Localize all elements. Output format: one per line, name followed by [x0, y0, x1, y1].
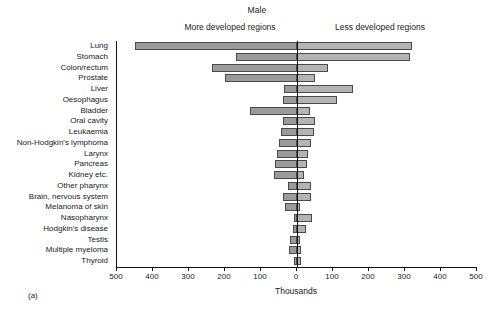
category-label: Multiple myeloma — [0, 245, 112, 256]
x-axis-tick — [440, 267, 441, 271]
bar-less-developed — [297, 225, 306, 233]
bar-less-developed — [297, 53, 410, 61]
x-axis-label: Thousands — [116, 286, 476, 296]
category-axis-labels: LungStomachColon/rectumProstateLiverOeso… — [0, 41, 112, 267]
bar-less-developed — [297, 139, 311, 147]
bar-more-developed — [290, 236, 297, 244]
bar-more-developed — [285, 203, 297, 211]
x-axis-tick — [152, 267, 153, 271]
bar-less-developed — [297, 128, 314, 136]
bar-more-developed — [289, 246, 297, 254]
category-label: Leukaemia — [0, 127, 112, 138]
x-axis-tick-label: 500 — [96, 272, 136, 281]
category-label: Testis — [0, 235, 112, 246]
panel-letter: (a) — [28, 291, 38, 300]
bar-more-developed — [288, 182, 297, 190]
bar-less-developed — [297, 117, 315, 125]
x-axis-tick — [188, 267, 189, 271]
bar-more-developed — [236, 53, 297, 61]
legend-less-developed-regions: Less developed regions — [295, 22, 465, 32]
bar-more-developed — [135, 42, 297, 50]
bar-more-developed — [279, 139, 297, 147]
bar-less-developed — [297, 42, 412, 50]
bar-less-developed — [297, 96, 337, 104]
bar-less-developed — [297, 74, 315, 82]
category-label: Other pharynx — [0, 181, 112, 192]
x-axis-tick-label: 500 — [456, 272, 488, 281]
category-label: Thyroid — [0, 256, 112, 267]
x-axis-tick — [260, 267, 261, 271]
category-label: Nasopharynx — [0, 213, 112, 224]
x-axis-tick-label: 400 — [132, 272, 172, 281]
bar-less-developed — [297, 171, 304, 179]
plot-area — [116, 41, 476, 267]
bar-less-developed — [297, 160, 307, 168]
bar-more-developed — [274, 171, 297, 179]
bar-more-developed — [283, 117, 297, 125]
x-axis-tick — [404, 267, 405, 271]
bar-more-developed — [283, 96, 297, 104]
x-axis-tick-label: 300 — [168, 272, 208, 281]
category-label: Pancreas — [0, 159, 112, 170]
bar-more-developed — [275, 160, 297, 168]
bar-more-developed — [277, 150, 297, 158]
category-label: Bladder — [0, 106, 112, 117]
chart-title: Male — [0, 5, 488, 15]
category-label: Kidney etc. — [0, 170, 112, 181]
x-axis-tick — [332, 267, 333, 271]
category-label: Lung — [0, 41, 112, 52]
legend-more-developed-regions: More developed regions — [150, 22, 310, 32]
x-axis-tick-label: 400 — [420, 272, 460, 281]
bar-less-developed — [297, 85, 353, 93]
bar-less-developed — [297, 107, 310, 115]
bar-more-developed — [283, 193, 297, 201]
category-label: Melanoma of skin — [0, 202, 112, 213]
x-axis-tick-label: 300 — [384, 272, 424, 281]
category-label: Stomach — [0, 52, 112, 63]
bar-more-developed — [250, 107, 297, 115]
bar-more-developed — [284, 85, 297, 93]
bar-less-developed — [297, 193, 311, 201]
bar-more-developed — [212, 64, 297, 72]
x-axis-tick — [224, 267, 225, 271]
x-axis-tick-label: 200 — [204, 272, 244, 281]
zero-axis-line — [297, 41, 298, 267]
x-axis-tick — [476, 267, 477, 271]
bar-less-developed — [297, 150, 308, 158]
cancer-incidence-pyramid-chart: Male More developed regions Less develop… — [0, 0, 488, 314]
category-label: Brain, nervous system — [0, 192, 112, 203]
bar-less-developed — [297, 64, 328, 72]
x-axis-tick-label: 100 — [240, 272, 280, 281]
bar-less-developed — [297, 182, 311, 190]
category-label: Hodgkin's disease — [0, 224, 112, 235]
category-label: Prostate — [0, 73, 112, 84]
category-label: Colon/rectum — [0, 63, 112, 74]
x-axis-tick — [116, 267, 117, 271]
x-axis-tick-label: 100 — [312, 272, 352, 281]
category-label: Oesophagus — [0, 95, 112, 106]
bar-more-developed — [225, 74, 297, 82]
chart-title-text: Male — [248, 5, 267, 15]
x-axis-tick-label: 0 — [276, 272, 316, 281]
bar-more-developed — [281, 128, 297, 136]
category-label: Liver — [0, 84, 112, 95]
x-axis-tick — [368, 267, 369, 271]
x-axis-tick-label: 200 — [348, 272, 388, 281]
category-label: Oral cavity — [0, 116, 112, 127]
category-label: Non-Hodgkin's lymphoma — [0, 138, 112, 149]
category-label: Larynx — [0, 149, 112, 160]
x-axis-tick — [296, 267, 297, 271]
bar-less-developed — [297, 214, 312, 222]
